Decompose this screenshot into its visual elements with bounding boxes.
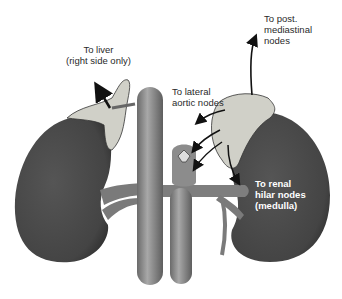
label-to-liver: To liver (right side only) bbox=[66, 44, 131, 66]
adrenal-lymph-drainage-diagram: To liver (right side only) To lateral ao… bbox=[0, 0, 342, 299]
label-to-post-mediastinal-nodes: To post. mediastinal nodes bbox=[264, 13, 312, 46]
inferior-vena-cava bbox=[137, 87, 163, 285]
right-kidney bbox=[15, 117, 111, 262]
arrow-to-post-mediastinal bbox=[251, 38, 255, 95]
aorta bbox=[170, 188, 192, 284]
label-to-lateral-aortic-nodes: To lateral aortic nodes bbox=[172, 86, 224, 108]
label-to-renal-hilar-nodes: To renal hilar nodes (medulla) bbox=[255, 178, 306, 211]
